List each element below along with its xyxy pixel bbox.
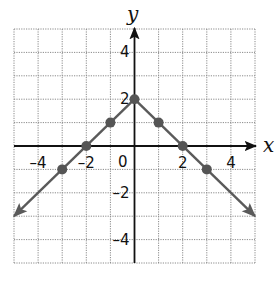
- origin-label: 0: [118, 153, 128, 171]
- data-point: [105, 118, 115, 128]
- x-tick-label: 2: [178, 154, 188, 172]
- data-point: [154, 118, 164, 128]
- y-tick-label: 4: [120, 43, 130, 61]
- data-point: [178, 141, 188, 151]
- y-tick-label: –4: [112, 231, 129, 249]
- data-point: [202, 164, 212, 174]
- y-axis-label: y: [126, 2, 139, 26]
- data-point: [81, 141, 91, 151]
- data-point: [130, 94, 140, 104]
- graph-line-right: [135, 99, 256, 216]
- x-tick-label: 4: [226, 154, 236, 172]
- data-point: [57, 164, 67, 174]
- x-axis-label: x: [263, 133, 274, 157]
- axes: [14, 28, 256, 263]
- y-tick-label: –2: [112, 184, 129, 202]
- x-tick-label: –2: [78, 154, 95, 172]
- x-tick-label: –4: [30, 154, 47, 172]
- coordinate-graph: –4–22442–2–4 x y 0: [0, 0, 276, 295]
